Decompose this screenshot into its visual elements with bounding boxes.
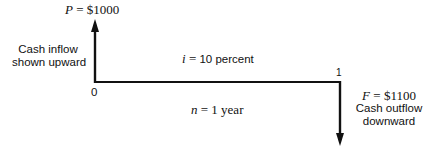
- outflow-note-line1: Cash outflow: [350, 102, 428, 115]
- time-label-start: 0: [91, 86, 97, 99]
- interest-rate-label: i = 10 percent: [182, 52, 254, 66]
- inflow-note: Cash inflow shown upward: [12, 43, 84, 69]
- present-value-amount: $1000: [87, 2, 120, 17]
- future-value-label: F = $1100: [350, 89, 428, 102]
- present-value-label: P = $1000: [65, 3, 119, 16]
- future-value-symbol: F: [362, 88, 370, 103]
- outflow-block: F = $1100 Cash outflow downward: [350, 89, 428, 128]
- period-label: n = 1 year: [191, 103, 243, 117]
- present-value-symbol: P: [65, 2, 73, 17]
- interest-value: 10 percent: [199, 53, 253, 65]
- future-value-amount: $1100: [384, 88, 416, 103]
- outflow-arrow-down-icon: [336, 81, 344, 146]
- outflow-note-line2: downward: [350, 115, 428, 128]
- time-label-end: 1: [336, 66, 342, 79]
- inflow-arrow-up-icon: [91, 19, 99, 83]
- period-value: 1 year: [211, 102, 243, 117]
- cash-flow-diagram: P = $1000 Cash inflow shown upward i = 1…: [0, 0, 428, 149]
